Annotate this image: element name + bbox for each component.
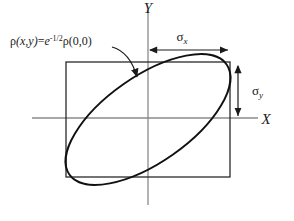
diagram-canvas: X Y σx σy ρ(x,y)=e-1/2ρ(0,0) bbox=[0, 0, 294, 221]
equation-args-2: (0,0) bbox=[69, 34, 92, 48]
sigma-x-measure: σx bbox=[150, 29, 228, 50]
equation-exponent: -1/2 bbox=[50, 34, 63, 43]
sigma-x-label: σx bbox=[176, 29, 187, 46]
contour-equation-annotation: ρ(x,y)=e-1/2ρ(0,0) bbox=[10, 34, 137, 77]
sigma-x-subscript: x bbox=[183, 36, 188, 46]
sigma-y-label: σy bbox=[252, 83, 263, 100]
contour-equation-text: ρ(x,y)=e-1/2ρ(0,0) bbox=[10, 34, 92, 48]
sigma-y-symbol: σ bbox=[252, 83, 259, 98]
equation-args-1: (x,y) bbox=[16, 34, 38, 48]
y-axis-label: Y bbox=[144, 0, 154, 16]
sigma-x-symbol: σ bbox=[176, 29, 183, 44]
sigma-y-measure: σy bbox=[238, 66, 263, 116]
x-axis-label: X bbox=[260, 111, 271, 127]
sigma-y-subscript: y bbox=[258, 90, 263, 100]
figure-container: X Y σx σy ρ(x,y)=e-1/2ρ(0,0) bbox=[0, 0, 294, 221]
